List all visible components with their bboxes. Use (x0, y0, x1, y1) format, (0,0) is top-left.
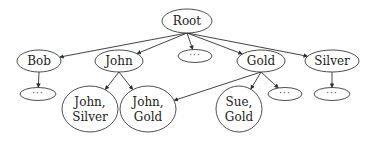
node-label: Root (173, 14, 201, 28)
node-label: John, (130, 95, 163, 109)
ellipsis-label: ··· (279, 88, 291, 98)
node-label: Silver (72, 110, 108, 124)
edge-root-to-john (137, 33, 187, 54)
node-mid-more: ··· (178, 50, 212, 63)
edge-root-to-mid-more (187, 33, 193, 50)
node-bob: Bob (17, 50, 61, 72)
node-label: Sue, (226, 95, 253, 109)
node-gold: Gold (237, 50, 285, 72)
node-label: Gold (247, 54, 276, 68)
ellipsis-label: ··· (326, 88, 338, 98)
node-label: Bob (27, 54, 51, 68)
node-john: John (95, 50, 143, 72)
node-label: John, (72, 95, 105, 109)
node-root: Root (162, 9, 212, 33)
ellipsis-label: ··· (189, 50, 201, 60)
node-gold-more: ··· (268, 88, 302, 101)
node-label: Gold (134, 110, 163, 124)
node-silver: Silver (305, 50, 359, 72)
node-label: John (103, 54, 133, 68)
node-silver-more: ··· (314, 88, 350, 101)
node-john-gold: John,Gold (120, 86, 176, 132)
node-sue-gold: Sue,Gold (216, 86, 262, 132)
edge-john-to-john-silver (105, 72, 119, 90)
edge-gold-to-gold-more (261, 72, 278, 88)
node-label: Gold (225, 110, 254, 124)
tree-diagram: RootBobJohn···GoldSilver···John,SilverJo… (0, 0, 377, 143)
nodes: RootBobJohn···GoldSilver···John,SilverJo… (17, 9, 359, 132)
node-john-silver: John,Silver (62, 86, 118, 132)
node-label: Silver (314, 54, 350, 68)
ellipsis-label: ··· (32, 88, 44, 98)
edge-bob-to-bob-more (38, 72, 39, 88)
node-bob-more: ··· (20, 88, 56, 101)
edge-john-to-john-gold (119, 72, 133, 90)
